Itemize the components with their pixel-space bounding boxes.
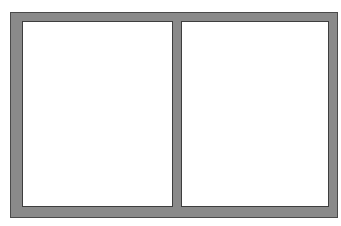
right-pane bbox=[181, 21, 329, 207]
left-pane bbox=[22, 21, 173, 207]
window-frame bbox=[10, 12, 338, 218]
